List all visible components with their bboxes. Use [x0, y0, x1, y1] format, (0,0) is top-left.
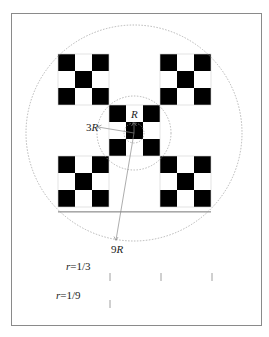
scale-label-one-third: r=1/3 [66, 260, 91, 272]
grid-bottom-edge [58, 212, 211, 213]
grid-cell-black [58, 190, 75, 207]
figure-frame [12, 14, 262, 326]
grid-cell-black [58, 54, 75, 71]
grid-cell-black [109, 105, 126, 122]
grid-cell-black [194, 88, 211, 105]
grid-cell-black [194, 54, 211, 71]
grid-cell-black [92, 54, 109, 71]
grid-cell-black [160, 54, 177, 71]
grid-cell-black [92, 190, 109, 207]
grid-cell-black [160, 88, 177, 105]
grid-cell-black [143, 105, 160, 122]
grid-cell-black [75, 173, 92, 190]
grid-cell-black [194, 190, 211, 207]
label-9R: 9R [111, 243, 124, 255]
grid-cell-black [126, 122, 143, 139]
grid-cell-black [194, 156, 211, 173]
grid-cell-black [109, 139, 126, 156]
grid-cell-black [177, 71, 194, 88]
grid-cell-black [160, 156, 177, 173]
grid-cell-black [92, 88, 109, 105]
grid-cell-black [58, 156, 75, 173]
grid-cell-black [160, 190, 177, 207]
scale-label-one-ninth: r=1/9 [56, 289, 81, 301]
label-R: R [130, 108, 138, 120]
grid-cell-black [92, 156, 109, 173]
grid-cell-black [58, 88, 75, 105]
grid-cell-black [75, 71, 92, 88]
grid-cell-black [177, 173, 194, 190]
grid-cell-black [143, 139, 160, 156]
label-3R: 3R [86, 121, 99, 133]
vicsek-fractal-figure: R 3R 9R r=1/3 r=1/9 [0, 0, 269, 337]
